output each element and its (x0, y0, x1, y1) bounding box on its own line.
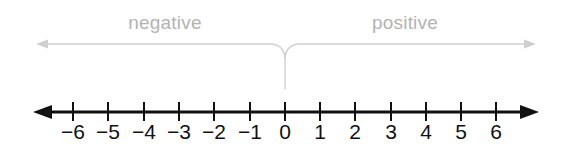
tick-label: −2 (202, 121, 226, 142)
tick-label: −3 (167, 121, 191, 142)
positive-range-bracket (285, 40, 536, 59)
tick-label: 5 (455, 121, 467, 142)
negative-bracket-corner (270, 44, 285, 58)
tick-label: 4 (420, 121, 432, 142)
axis-left-arrowhead-icon (33, 105, 52, 119)
tick-label: −1 (238, 121, 262, 142)
tick-label: −4 (132, 121, 156, 142)
tick-label: 2 (349, 121, 361, 142)
tick-label: −5 (96, 121, 120, 142)
tick-label: 3 (385, 121, 397, 142)
negative-bracket-arrowhead-icon (36, 40, 48, 49)
tick-label: 6 (490, 121, 502, 142)
tick-label: 0 (279, 121, 291, 142)
axis-right-arrowhead-icon (520, 105, 539, 119)
positive-region-label: positive (372, 13, 438, 32)
tick-label: 1 (314, 121, 326, 142)
negative-region-label: negative (128, 13, 201, 32)
tick-label: −6 (61, 121, 85, 142)
number-line-diagram: negative positive −6−5−4−3−2−10123456 (0, 0, 572, 149)
negative-range-bracket (36, 40, 285, 59)
positive-bracket-arrowhead-icon (524, 40, 536, 49)
positive-bracket-corner (285, 44, 300, 58)
